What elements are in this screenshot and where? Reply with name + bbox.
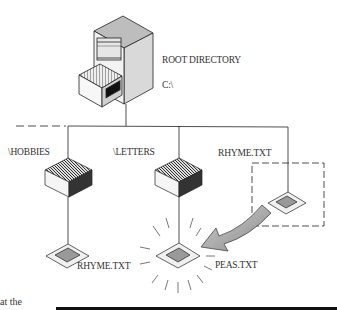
root-cabinet-icon <box>79 16 153 107</box>
root-drive-label: C:\ <box>162 80 173 90</box>
diagram-graphics <box>0 0 337 310</box>
root-rhyme-document-icon <box>268 192 306 214</box>
letters-file-label: PEAS.TXT <box>215 260 257 270</box>
hobbies-dir-label: \HOBBIES <box>8 147 50 157</box>
caption-fragment: at the <box>0 296 22 307</box>
hobbies-file-label: RHYME.TXT <box>77 261 130 271</box>
hobbies-cabinet-icon <box>45 158 92 197</box>
letters-dir-label: \LETTERS <box>113 147 155 157</box>
letters-peas-document-icon <box>156 243 200 268</box>
move-arrow-icon <box>201 205 271 251</box>
root-file-label: RHYME.TXT <box>218 148 271 158</box>
letters-cabinet-icon <box>155 158 202 197</box>
root-directory-label: ROOT DIRECTORY <box>162 55 241 65</box>
directory-tree-diagram: ROOT DIRECTORY C:\ \HOBBIES \LETTERS RHY… <box>0 0 337 310</box>
